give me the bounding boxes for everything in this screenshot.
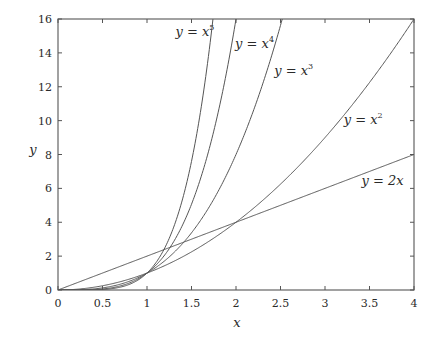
curve-x5: [58, 12, 214, 290]
y-tick-label: 16: [38, 13, 52, 26]
curve-label: y = x4: [234, 35, 274, 51]
x-tick-label: 3.5: [361, 297, 379, 310]
x-tick-label: 1.5: [183, 297, 201, 310]
y-tick-label: 8: [45, 149, 52, 162]
x-tick-label: 0.5: [94, 297, 112, 310]
y-tick-label: 12: [38, 81, 52, 94]
x-tick-label: 3: [322, 297, 329, 310]
x-axis-label: x: [233, 315, 241, 330]
y-tick-label: 10: [38, 115, 52, 128]
y-tick-label: 2: [45, 250, 52, 263]
x-tick-label: 2.5: [272, 297, 290, 310]
y-axis-label: y: [28, 142, 37, 157]
curves: [58, 12, 414, 290]
y-tick-label: 6: [45, 182, 52, 195]
y-tick-label: 14: [38, 47, 52, 60]
y-tick-labels: 0246810121416: [38, 13, 52, 297]
chart: 00.511.522.533.54 0246810121416 y = x5y …: [0, 0, 436, 342]
curve-x4: [58, 14, 237, 290]
y-tick-label: 4: [45, 216, 52, 229]
y-tick-label: 0: [45, 284, 52, 297]
curve-labels: y = x5y = x4y = x3y = x2y = 2x: [174, 23, 404, 188]
x-tick-labels: 00.511.522.533.54: [55, 297, 418, 310]
curve-label: y = 2x: [360, 173, 404, 188]
x-tick-label: 1: [144, 297, 151, 310]
curve-x3: [58, 19, 282, 290]
x-tick-label: 4: [411, 297, 418, 310]
curve-label: y = x3: [273, 62, 313, 78]
curve-label: y = x5: [174, 23, 214, 39]
x-tick-label: 0: [55, 297, 62, 310]
x-tick-label: 2: [233, 297, 240, 310]
curve-label: y = x2: [343, 111, 383, 127]
